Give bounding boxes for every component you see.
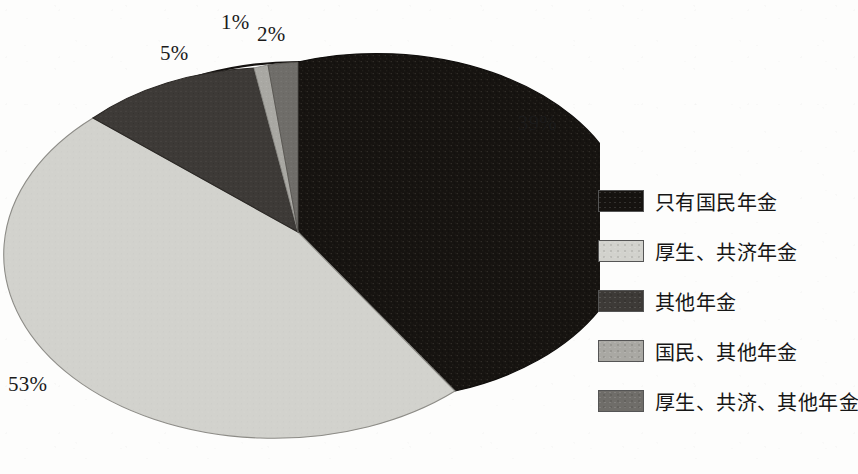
pie-chart-svg bbox=[0, 0, 600, 474]
legend-item-employees-mutual-other-pension: 厚生、共济、其他年金 bbox=[598, 376, 858, 426]
legend-item-employees-mutual-aid: 厚生、共济年金 bbox=[598, 226, 858, 276]
legend-label: 其他年金 bbox=[655, 287, 737, 316]
legend-label: 厚生、共济年金 bbox=[655, 237, 798, 266]
legend-swatch-icon bbox=[598, 340, 644, 362]
pie-label-39-percent: 39% bbox=[518, 111, 557, 136]
pie-label-1-percent: 1% bbox=[221, 10, 249, 35]
legend-swatch-icon bbox=[598, 240, 644, 262]
legend-item-other-pension: 其他年金 bbox=[598, 276, 858, 326]
pie-label-5-percent: 5% bbox=[160, 41, 188, 66]
legend-swatch-icon bbox=[598, 290, 644, 312]
legend-item-national-other-pension: 国民、其他年金 bbox=[598, 326, 858, 376]
pie-slices bbox=[4, 54, 600, 439]
legend-label: 厚生、共济、其他年金 bbox=[655, 387, 858, 416]
pie-label-53-percent: 53% bbox=[8, 372, 47, 397]
legend-item-only-national-pension: 只有国民年金 bbox=[598, 176, 858, 226]
legend-label: 只有国民年金 bbox=[655, 187, 777, 216]
pie-chart-figure bbox=[0, 0, 600, 474]
chart-page: 39% 53% 5% 1% 2% 只有国民年金 厚生、共济年金 其他年金 国民、… bbox=[0, 0, 858, 474]
legend-swatch-icon bbox=[598, 190, 644, 212]
pie-label-2-percent: 2% bbox=[257, 22, 285, 47]
chart-legend: 只有国民年金 厚生、共济年金 其他年金 国民、其他年金 厚生、共济、其他年金 bbox=[598, 176, 858, 426]
legend-swatch-icon bbox=[598, 390, 644, 412]
legend-label: 国民、其他年金 bbox=[655, 337, 798, 366]
